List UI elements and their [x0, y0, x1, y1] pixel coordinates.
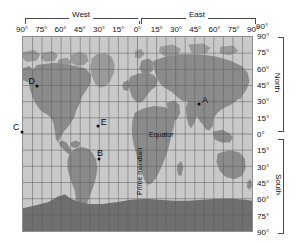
latitude-corner-label: 90°	[256, 22, 268, 31]
longitude-tick-label: 15°	[112, 25, 124, 34]
latitude-tick-label: 45°	[257, 81, 269, 90]
map-point-c[interactable]	[21, 130, 24, 133]
latitude-tick-label: 60°	[257, 195, 269, 204]
map-point-label-d: D	[28, 76, 35, 86]
longitude-tick-label: 60°	[208, 25, 220, 34]
latitude-tick-label: 30°	[257, 97, 269, 106]
longitude-tick-label: 15°	[151, 25, 163, 34]
equator-label: Equator	[149, 131, 174, 138]
latitude-tick-label: 0°	[257, 130, 265, 139]
longitude-tick-label: 30°	[93, 25, 105, 34]
latitude-tick-label: 15°	[257, 113, 269, 122]
map-point-label-c: C	[13, 122, 20, 132]
north-hemisphere-label: North	[273, 71, 282, 95]
longitude-tick-label: 30°	[170, 25, 182, 34]
south-hemisphere-label: South	[274, 172, 283, 197]
map-point-label-e: E	[101, 117, 107, 127]
world-map-figure: West East 90°75°60°45°30°15°0°15°30°45°6…	[0, 0, 302, 243]
bracket-gap-mask	[138, 17, 141, 21]
latitude-tick-label: 75°	[257, 48, 269, 57]
longitude-tick-label: 60°	[54, 25, 66, 34]
world-map-canvas[interactable]: Prime meridian Equator	[22, 36, 253, 232]
west-hemisphere-label: West	[69, 10, 93, 19]
east-hemisphere-label: East	[186, 10, 208, 19]
latitude-tick-label: 45°	[257, 179, 269, 188]
latitude-tick-label: 15°	[257, 146, 269, 155]
latitude-tick-label: 60°	[257, 64, 269, 73]
longitude-tick-label: 75°	[35, 25, 47, 34]
latitude-tick-label: 90°	[257, 32, 269, 41]
latitude-tick-label: 90°	[257, 228, 269, 237]
map-point-label-b: B	[97, 148, 103, 158]
longitude-tick-label: 0°	[134, 25, 142, 34]
latitude-tick-label: 30°	[257, 162, 269, 171]
map-point-e[interactable]	[96, 125, 99, 128]
prime-meridian-label: Prime meridian	[136, 148, 143, 195]
map-point-label-a: A	[202, 95, 208, 105]
map-point-d[interactable]	[36, 85, 39, 88]
world-map-svg	[23, 37, 252, 231]
longitude-tick-label: 45°	[189, 25, 201, 34]
latitude-tick-label: 75°	[257, 211, 269, 220]
longitude-tick-label: 75°	[228, 25, 240, 34]
longitude-tick-label: 90°	[16, 25, 28, 34]
map-point-a[interactable]	[198, 102, 201, 105]
longitude-tick-label: 45°	[74, 25, 86, 34]
